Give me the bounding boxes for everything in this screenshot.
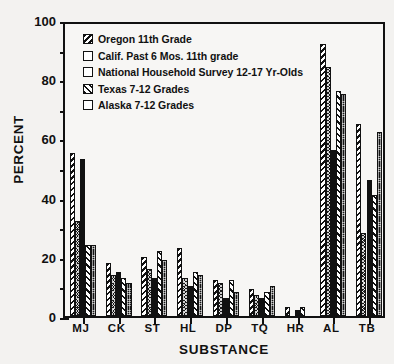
y-tick-mark	[60, 318, 69, 320]
bar	[91, 245, 96, 316]
y-tick-label: 60	[0, 132, 56, 147]
x-tick-label: CK	[108, 322, 126, 334]
x-tick-label: DP	[215, 322, 232, 334]
y-tick-label: 80	[0, 73, 56, 88]
bar	[300, 307, 305, 316]
bar-group	[320, 24, 346, 316]
x-tick-label: AL	[323, 322, 340, 334]
bar-group	[141, 24, 167, 316]
bar-group	[249, 24, 275, 316]
y-tick-label: 40	[0, 192, 56, 207]
x-tick-label: ST	[144, 322, 160, 334]
y-tick-label: 0	[0, 310, 56, 325]
y-tick-label: 20	[0, 251, 56, 266]
bar	[285, 307, 290, 316]
bar-group	[177, 24, 203, 316]
x-tick-label: HR	[287, 322, 305, 334]
y-axis-ticks: 020406080100	[0, 22, 60, 318]
bar-group	[356, 24, 382, 316]
bar-chart-figure: PERCENT 020406080100 Oregon 11th GradeCa…	[0, 0, 394, 364]
bar	[377, 132, 382, 316]
bar	[162, 260, 167, 316]
bar	[126, 283, 131, 316]
x-tick-label: MJ	[72, 322, 89, 334]
x-tick-label: HL	[180, 322, 197, 334]
bar	[234, 292, 239, 316]
bar-group	[285, 24, 311, 316]
bar-group	[106, 24, 132, 316]
y-tick-label: 100	[0, 14, 56, 29]
bar-group	[70, 24, 96, 316]
x-tick-label: TQ	[251, 322, 268, 334]
bar	[270, 286, 275, 316]
bar	[341, 94, 346, 316]
x-axis-title: SUBSTANCE	[63, 342, 385, 357]
bar	[198, 275, 203, 316]
bar-group	[213, 24, 239, 316]
plot-area: Oregon 11th GradeCalif. Past 6 Mos. 11th…	[63, 22, 385, 318]
x-tick-label: TB	[359, 322, 376, 334]
